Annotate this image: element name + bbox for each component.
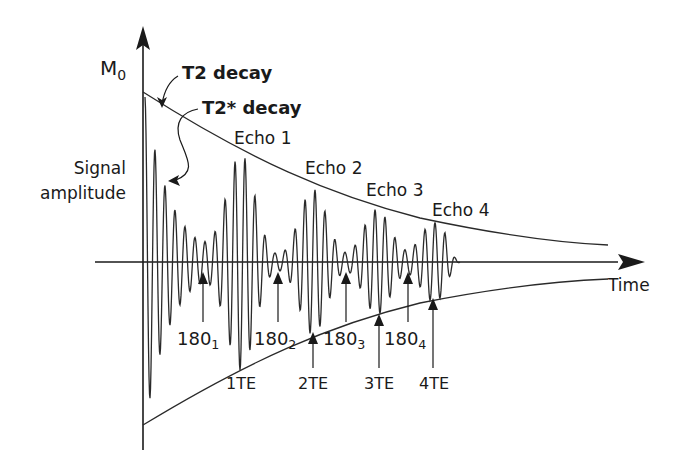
pulse-180-4-label: 1804 <box>384 330 426 348</box>
y-axis <box>136 26 150 450</box>
y-axis-label: M0 <box>100 58 126 78</box>
spin-echo-diagram: M0 T2 decay T2* decay Signal amplitude E… <box>0 0 678 470</box>
te-4-label: 4TE <box>419 376 449 392</box>
echo-4-label: Echo 4 <box>432 202 489 219</box>
pulse-180-1-label: 1801 <box>177 330 219 348</box>
echo-1-label: Echo 1 <box>234 130 291 147</box>
pulse-180-2-label: 1802 <box>254 330 296 348</box>
signal-waveform <box>145 97 460 398</box>
t2star-pointer-head-icon <box>168 175 180 186</box>
signal-amplitude-label-line1: Signal <box>64 160 126 177</box>
echo-3-label: Echo 3 <box>366 182 423 199</box>
te-1-label: 1TE <box>226 376 256 392</box>
x-axis-arrow-icon <box>618 254 645 270</box>
signal-amplitude-label-line2: amplitude <box>25 185 126 202</box>
t2star-decay-label: T2* decay <box>202 99 302 117</box>
t2-envelope-bottom <box>143 279 608 425</box>
te-2-label: 2TE <box>298 376 328 392</box>
t2-decay-label: T2 decay <box>182 64 272 82</box>
pulse-180-3-label: 1803 <box>323 330 365 348</box>
x-axis-label: Time <box>608 277 650 294</box>
te-3-label: 3TE <box>364 376 394 392</box>
echo-2-label: Echo 2 <box>305 160 362 177</box>
